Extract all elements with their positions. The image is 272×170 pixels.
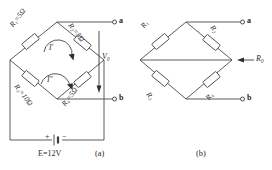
battery-emf-label: E=12V (38, 150, 61, 158)
b-terminal-b-label: b (247, 94, 251, 102)
terminal-b-label: b (119, 94, 123, 102)
panel-a-caption: (a) (95, 150, 104, 158)
v0-label: V₀ (102, 53, 110, 61)
mesh-current-i-prime-label: I′ (49, 44, 53, 52)
circuit-canvas (0, 0, 272, 170)
b-terminal-a-dot (241, 20, 245, 24)
b-resistor-r2-body (203, 34, 221, 50)
mesh-current-i-dprime-arc (41, 74, 70, 86)
panel-b-caption: (b) (196, 150, 206, 158)
b-resistor-r4-body (203, 71, 221, 87)
terminal-a-dot (113, 20, 117, 24)
circuit-figure: R₁=5Ω R₂=5Ω R₃=10Ω R₄=5Ω a b V₀ I′ I″ + … (0, 0, 272, 170)
mesh-current-i-prime-head (69, 54, 75, 61)
b-resistor-r1-body (152, 33, 170, 49)
panel-a-graphics (10, 20, 117, 146)
resistor-r1-body (22, 33, 40, 49)
resistor-r4-body (74, 71, 92, 87)
b-terminal-a-label: a (247, 17, 251, 25)
r0-label: R₀ (256, 55, 264, 63)
r0-arrow-head (237, 58, 244, 63)
v0-arrow-head (97, 86, 102, 94)
mesh-current-i-dprime-label: I″ (47, 76, 53, 84)
b-resistor-r3-body (152, 70, 170, 86)
terminal-b-dot (113, 97, 117, 101)
battery-plus-sign: + (45, 133, 50, 141)
b-terminal-b-dot (241, 97, 245, 101)
resistor-r3-body (22, 70, 40, 86)
battery-minus-sign: − (62, 133, 67, 141)
terminal-a-label: a (119, 17, 123, 25)
panel-b-graphics (140, 20, 254, 101)
